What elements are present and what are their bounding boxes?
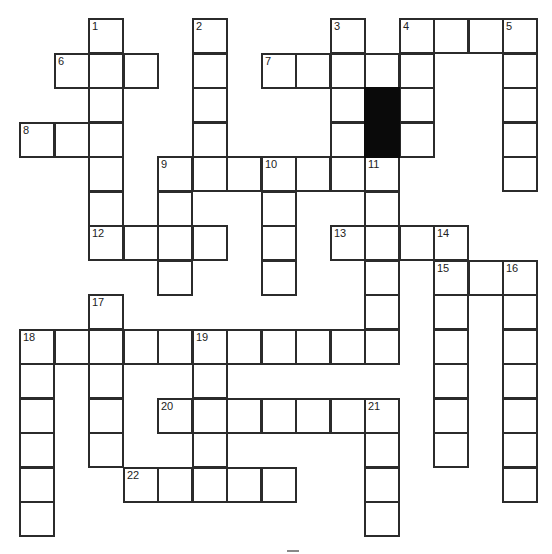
crossword-cell[interactable]	[226, 398, 262, 434]
letter-input[interactable]	[332, 158, 364, 190]
crossword-cell[interactable]	[88, 398, 124, 434]
letter-input[interactable]	[470, 262, 502, 294]
crossword-cell[interactable]: 15	[433, 260, 469, 296]
crossword-cell[interactable]	[433, 18, 469, 54]
crossword-cell[interactable]	[192, 156, 228, 192]
crossword-cell[interactable]	[433, 398, 469, 434]
crossword-cell[interactable]	[261, 191, 297, 227]
letter-input[interactable]	[90, 55, 122, 87]
crossword-cell[interactable]	[123, 53, 159, 89]
letter-input[interactable]	[332, 124, 364, 156]
crossword-cell[interactable]	[88, 87, 124, 123]
letter-input[interactable]	[21, 503, 53, 535]
crossword-cell[interactable]: 7	[261, 53, 297, 89]
letter-input[interactable]	[194, 227, 226, 259]
letter-input[interactable]	[21, 331, 53, 363]
letter-input[interactable]	[90, 20, 122, 52]
letter-input[interactable]	[159, 469, 191, 501]
crossword-cell[interactable]: 14	[433, 225, 469, 261]
letter-input[interactable]	[297, 331, 329, 363]
crossword-cell[interactable]	[433, 363, 469, 399]
letter-input[interactable]	[159, 331, 191, 363]
letter-input[interactable]	[332, 331, 364, 363]
crossword-cell[interactable]	[364, 191, 400, 227]
letter-input[interactable]	[366, 503, 398, 535]
letter-input[interactable]	[263, 158, 295, 190]
crossword-cell[interactable]	[502, 53, 538, 89]
letter-input[interactable]	[194, 365, 226, 397]
letter-input[interactable]	[263, 400, 295, 432]
letter-input[interactable]	[159, 193, 191, 225]
crossword-cell[interactable]: 18	[19, 329, 55, 365]
letter-input[interactable]	[504, 262, 536, 294]
letter-input[interactable]	[263, 469, 295, 501]
letter-input[interactable]	[21, 400, 53, 432]
crossword-cell[interactable]	[295, 156, 331, 192]
letter-input[interactable]	[263, 331, 295, 363]
crossword-cell[interactable]: 9	[157, 156, 193, 192]
crossword-cell[interactable]	[226, 156, 262, 192]
crossword-cell[interactable]	[261, 329, 297, 365]
crossword-cell[interactable]	[192, 398, 228, 434]
letter-input[interactable]	[90, 434, 122, 466]
crossword-cell[interactable]	[157, 260, 193, 296]
letter-input[interactable]	[366, 434, 398, 466]
letter-input[interactable]	[21, 124, 53, 156]
letter-input[interactable]	[366, 331, 398, 363]
crossword-cell[interactable]: 12	[88, 225, 124, 261]
letter-input[interactable]	[332, 89, 364, 121]
crossword-cell[interactable]	[19, 432, 55, 468]
crossword-cell[interactable]	[192, 467, 228, 503]
crossword-cell[interactable]	[19, 398, 55, 434]
crossword-cell[interactable]: 13	[330, 225, 366, 261]
crossword-cell[interactable]	[261, 467, 297, 503]
crossword-cell[interactable]	[295, 398, 331, 434]
crossword-cell[interactable]	[399, 53, 435, 89]
letter-input[interactable]	[366, 158, 398, 190]
crossword-cell[interactable]	[433, 432, 469, 468]
crossword-cell[interactable]	[123, 225, 159, 261]
letter-input[interactable]	[125, 469, 157, 501]
crossword-cell[interactable]	[364, 53, 400, 89]
crossword-cell[interactable]: 4	[399, 18, 435, 54]
letter-input[interactable]	[56, 124, 88, 156]
letter-input[interactable]	[228, 400, 260, 432]
letter-input[interactable]	[90, 124, 122, 156]
crossword-cell[interactable]	[192, 363, 228, 399]
letter-input[interactable]	[297, 55, 329, 87]
crossword-cell[interactable]: 17	[88, 294, 124, 330]
crossword-cell[interactable]	[399, 225, 435, 261]
crossword-cell[interactable]	[399, 122, 435, 158]
crossword-cell[interactable]	[157, 191, 193, 227]
crossword-cell[interactable]	[502, 294, 538, 330]
crossword-cell[interactable]: 5	[502, 18, 538, 54]
letter-input[interactable]	[435, 400, 467, 432]
crossword-cell[interactable]	[502, 363, 538, 399]
crossword-cell[interactable]	[295, 329, 331, 365]
crossword-cell[interactable]	[330, 329, 366, 365]
letter-input[interactable]	[401, 20, 433, 52]
crossword-cell[interactable]	[502, 467, 538, 503]
letter-input[interactable]	[504, 158, 536, 190]
crossword-cell[interactable]	[192, 122, 228, 158]
letter-input[interactable]	[504, 365, 536, 397]
letter-input[interactable]	[125, 55, 157, 87]
letter-input[interactable]	[194, 469, 226, 501]
crossword-cell[interactable]	[364, 467, 400, 503]
crossword-cell[interactable]	[295, 53, 331, 89]
crossword-cell[interactable]	[192, 53, 228, 89]
crossword-cell[interactable]	[364, 501, 400, 537]
letter-input[interactable]	[194, 89, 226, 121]
letter-input[interactable]	[435, 262, 467, 294]
crossword-cell[interactable]	[261, 225, 297, 261]
letter-input[interactable]	[297, 400, 329, 432]
crossword-cell[interactable]	[468, 260, 504, 296]
letter-input[interactable]	[159, 400, 191, 432]
letter-input[interactable]	[401, 89, 433, 121]
crossword-cell[interactable]	[364, 225, 400, 261]
crossword-cell[interactable]	[19, 501, 55, 537]
crossword-cell[interactable]	[88, 432, 124, 468]
crossword-cell[interactable]	[364, 294, 400, 330]
letter-input[interactable]	[366, 193, 398, 225]
letter-input[interactable]	[194, 434, 226, 466]
